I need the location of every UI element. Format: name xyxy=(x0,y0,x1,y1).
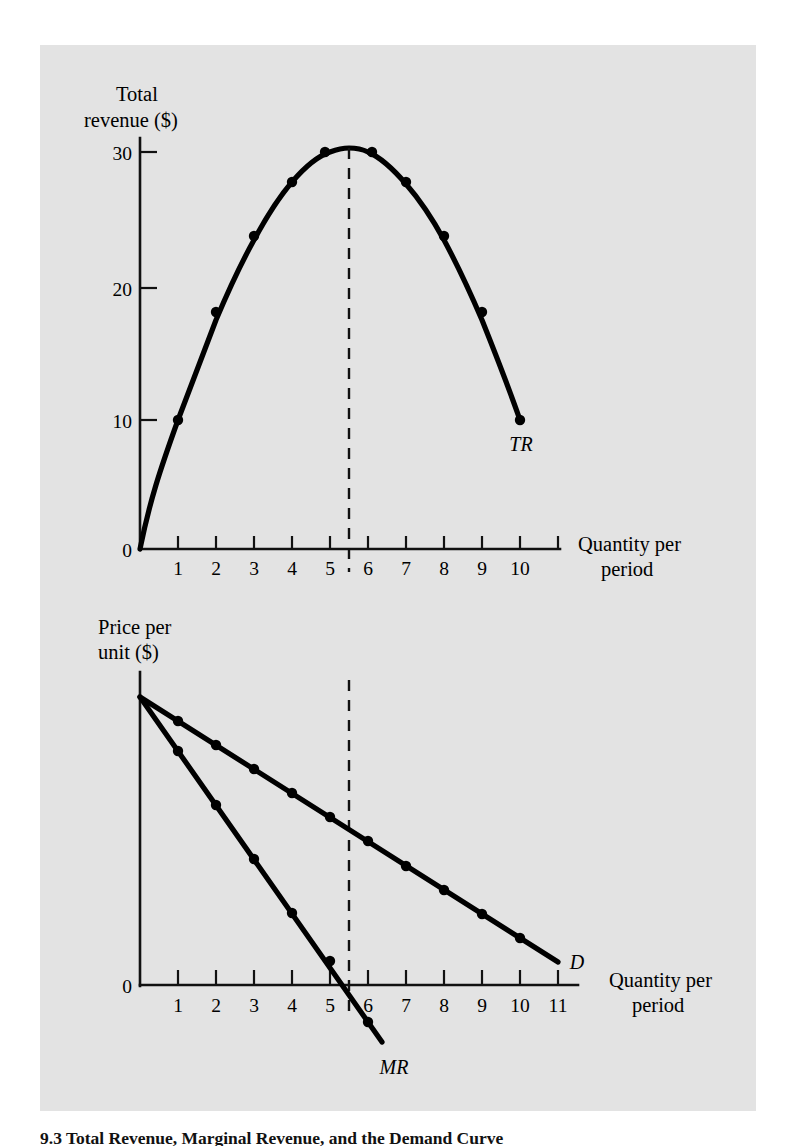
top-y-tick-label-30: 30 xyxy=(113,143,133,164)
top-y-tick-label-10: 10 xyxy=(113,411,133,432)
figure-caption: 9.3 Total Revenue, Marginal Revenue, and… xyxy=(40,1128,780,1146)
bottom-x-tick-label-2: 2 xyxy=(211,995,221,1016)
bottom-x-ticks xyxy=(178,970,558,985)
bottom-x-tick-label-9: 9 xyxy=(477,995,487,1016)
top-x-tick-label-3: 3 xyxy=(249,558,259,579)
top-x-tick-label-9: 9 xyxy=(477,558,487,579)
top-x-tick-label-2: 2 xyxy=(211,558,221,579)
bottom-x-axis-title-line2: period xyxy=(632,994,684,1017)
top-x-tick-label-8: 8 xyxy=(439,558,449,579)
top-y-axis-title-line1: Total xyxy=(116,83,158,105)
top-y-ticks xyxy=(140,152,157,420)
top-x-axis-title-line2: period xyxy=(601,558,653,581)
figure-svg: Total revenue ($) 30 20 10 0 1 2 3 4 5 6… xyxy=(0,0,794,1146)
top-y-tick-label-20: 20 xyxy=(113,279,133,300)
top-x-axis-title-line1: Quantity per xyxy=(578,533,681,556)
bottom-chart: Price per unit ($) 0 1 2 3 4 5 6 7 8 9 1… xyxy=(98,616,712,1078)
top-x-tick-label-4: 4 xyxy=(287,558,297,579)
top-x-ticks xyxy=(178,536,558,549)
bottom-x-tick-label-7: 7 xyxy=(401,995,411,1016)
series-label-d: D xyxy=(569,951,585,973)
top-x-tick-label-5: 5 xyxy=(325,558,335,579)
top-x-tick-label-6: 6 xyxy=(363,558,373,579)
bottom-y-tick-label-0: 0 xyxy=(122,976,132,997)
bottom-x-tick-label-11: 11 xyxy=(549,995,568,1016)
bottom-x-tick-label-6: 6 xyxy=(363,995,373,1016)
bottom-y-axis-title-line2: unit ($) xyxy=(98,641,159,664)
bottom-x-tick-label-5: 5 xyxy=(325,995,335,1016)
bottom-x-tick-label-1: 1 xyxy=(173,995,183,1016)
series-label-mr: MR xyxy=(379,1056,409,1078)
top-x-tick-label-1: 1 xyxy=(173,558,183,579)
bottom-x-tick-label-10: 10 xyxy=(510,995,530,1016)
bottom-x-tick-label-3: 3 xyxy=(249,995,259,1016)
top-y-tick-label-0: 0 xyxy=(122,540,132,561)
top-chart: Total revenue ($) 30 20 10 0 1 2 3 4 5 6… xyxy=(84,83,681,581)
bottom-y-axis-title-line1: Price per xyxy=(98,616,172,639)
total-revenue-curve xyxy=(140,148,520,549)
top-x-tick-label-10: 10 xyxy=(510,558,530,579)
series-label-tr: TR xyxy=(509,433,532,455)
top-x-tick-label-7: 7 xyxy=(401,558,411,579)
bottom-x-axis-title-line1: Quantity per xyxy=(609,969,712,992)
bottom-x-tick-label-8: 8 xyxy=(439,995,449,1016)
top-y-axis-title-line2: revenue ($) xyxy=(84,109,178,132)
bottom-x-tick-label-4: 4 xyxy=(287,995,297,1016)
